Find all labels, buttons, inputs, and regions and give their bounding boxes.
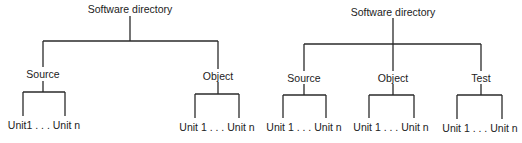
right-source-units: Unit 1 . . . Unit n: [266, 122, 341, 133]
left-source-units: Unit1 . . . Unit n: [8, 120, 80, 131]
right-test-label: Test: [471, 73, 490, 84]
left-tree-connectors: [23, 16, 239, 118]
right-source-label: Source: [287, 73, 320, 84]
left-object-label: Object: [203, 71, 233, 82]
right-object-label: Object: [378, 73, 408, 84]
left-root-label: Software directory: [88, 4, 173, 15]
right-object-units: Unit 1 . . . Unit n: [353, 122, 428, 133]
right-tree-connectors: [283, 18, 502, 119]
right-test-units: Unit 1 . . . Unit n: [442, 123, 517, 134]
left-object-units: Unit 1 . . . Unit n: [179, 122, 254, 133]
right-root-label: Software directory: [351, 7, 436, 18]
left-source-label: Source: [26, 69, 59, 80]
